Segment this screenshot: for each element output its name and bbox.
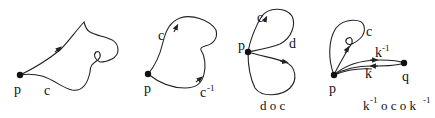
arrow-icon — [264, 18, 266, 22]
loop-diagram: p c p c c -1 p c d d o c p q c — [0, 0, 435, 118]
caption-exp1: -1 — [370, 95, 378, 105]
point-p — [145, 71, 151, 77]
label-inverse-exp: -1 — [207, 83, 215, 93]
panel-composition: p c d d o c — [238, 9, 296, 113]
curve-c-loop — [248, 9, 294, 52]
label-c: c — [44, 83, 50, 98]
point-p — [17, 72, 23, 78]
arrow-icon — [280, 61, 286, 62]
label-p: p — [238, 38, 245, 53]
label-c-inverse: c — [200, 85, 206, 100]
curve-c — [20, 22, 118, 90]
label-p: p — [144, 81, 151, 96]
point-p — [331, 72, 337, 78]
caption-k1: k — [363, 98, 370, 113]
panel-path-c: p c — [14, 22, 118, 98]
label-p: p — [14, 82, 21, 97]
curve-d-loop — [248, 52, 295, 95]
label-k-inverse-exp: -1 — [382, 43, 390, 53]
arrow-icon — [174, 26, 177, 32]
point-q — [401, 60, 407, 66]
label-k: k — [365, 66, 372, 81]
label-c: c — [366, 24, 372, 39]
label-c: c — [158, 28, 164, 43]
label-p: p — [329, 81, 336, 96]
label-k-inverse: k — [375, 45, 382, 60]
label-c: c — [257, 10, 263, 25]
label-d: d — [289, 36, 296, 51]
point-p — [245, 49, 251, 55]
caption-d-o-c: d o c — [260, 98, 286, 113]
caption-exp2: -1 — [423, 95, 431, 105]
label-q: q — [402, 69, 409, 84]
panel-conjugation: p q c k -1 k k -1 o c o k -1 — [329, 20, 431, 113]
panel-path-c-inverse: p c c -1 — [144, 17, 217, 100]
caption-mid: o c o k — [381, 98, 417, 113]
